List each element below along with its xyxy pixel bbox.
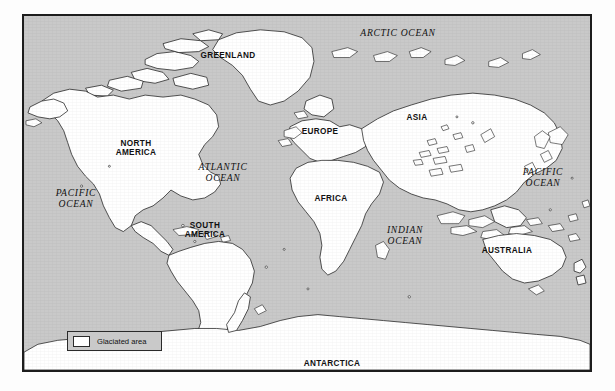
world-map-figure: .land { fill: #ffffff; stroke: #1d1d1d; … [0,0,615,391]
map-landmasses: .land { fill: #ffffff; stroke: #1d1d1d; … [24,16,590,370]
legend-swatch-glaciated-area [73,336,90,347]
map-frame: .land { fill: #ffffff; stroke: #1d1d1d; … [22,14,592,372]
legend-label: Glaciated area [97,337,146,346]
legend: Glaciated area [67,331,162,351]
